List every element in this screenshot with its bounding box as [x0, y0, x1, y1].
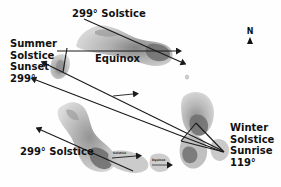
north-letter: N: [243, 28, 257, 36]
label-summer-solstice-sunset: Summer Solstice Sunset 299°: [10, 38, 57, 84]
mound-lower-left: [58, 102, 116, 172]
north-arrow-glyph: [247, 37, 253, 44]
label-winter-solstice-sunrise: Winter Solstice Sunrise 119°: [230, 122, 274, 168]
sightline-inset-mid[interactable]: [113, 94, 133, 96]
label-equinox: Equinox: [95, 53, 140, 65]
mound-right-upper: [181, 92, 214, 136]
label-inset-equinox-small: Equinox: [152, 159, 166, 162]
diagram-canvas: 299° Solstice Summer Solstice Sunset 299…: [0, 0, 281, 187]
label-bottom-solstice: 299° Solstice: [20, 146, 94, 158]
marker-dot-lower: [164, 167, 167, 171]
north-arrow-icon: N: [243, 28, 257, 44]
marker-dot-upper: [185, 74, 189, 79]
label-inset-solstice-small: Solstice: [113, 152, 126, 155]
label-top-solstice: 299° Solstice: [72, 8, 146, 20]
